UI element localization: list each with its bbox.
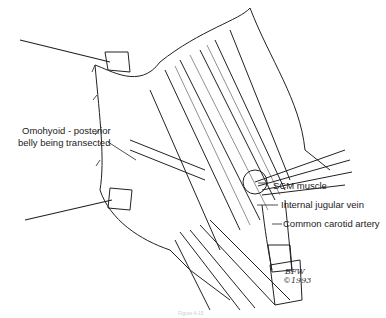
label-internal-jugular-vein: Internal jugular vein bbox=[281, 199, 364, 210]
signature-year: ©1993 bbox=[283, 277, 311, 285]
signature-initials: BFW bbox=[285, 268, 305, 276]
figure-caption: Figure 4-15 bbox=[178, 310, 204, 316]
label-omohyoid-line2: belly being transected bbox=[18, 137, 110, 148]
label-scm-muscle: SCM muscle bbox=[273, 180, 327, 191]
label-omohyoid-line1: Omohyoid - posterior bbox=[22, 125, 111, 136]
surgical-illustration bbox=[0, 0, 386, 318]
label-common-carotid-artery: Common carotid artery bbox=[283, 218, 380, 229]
